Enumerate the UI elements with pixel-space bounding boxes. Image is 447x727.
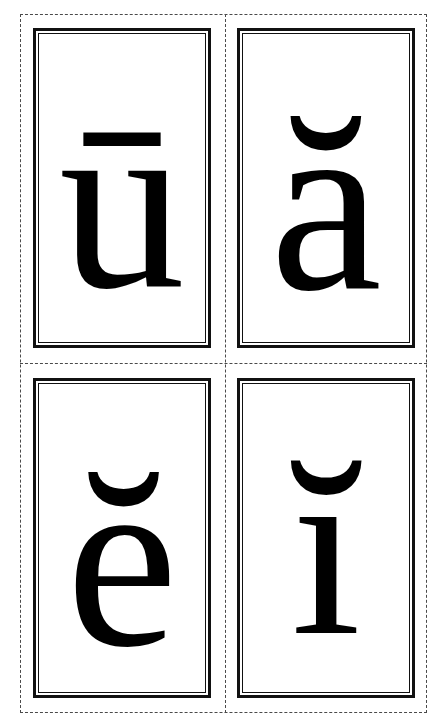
vowel-glyph-a-breve: ă	[270, 106, 382, 303]
flashcard-a-breve[interactable]: ă	[237, 28, 415, 348]
vowel-glyph-e-breve: ĕ	[66, 462, 178, 659]
flashcard-face: ă	[242, 33, 410, 343]
flashcard-face: ĭ	[242, 383, 410, 693]
flashcard-u-macron[interactable]: ū	[33, 28, 211, 348]
cut-line-vertical	[225, 14, 226, 713]
flashcard-e-breve[interactable]: ĕ	[33, 378, 211, 698]
flashcard-sheet: ū ă ĕ ĭ	[0, 0, 447, 727]
vowel-glyph-u-macron: ū	[59, 104, 185, 301]
flashcard-i-breve[interactable]: ĭ	[237, 378, 415, 698]
cut-line-horizontal	[20, 363, 427, 364]
vowel-glyph-i-breve: ĭ	[291, 450, 361, 647]
flashcard-face: ū	[38, 33, 206, 343]
flashcard-face: ĕ	[38, 383, 206, 693]
